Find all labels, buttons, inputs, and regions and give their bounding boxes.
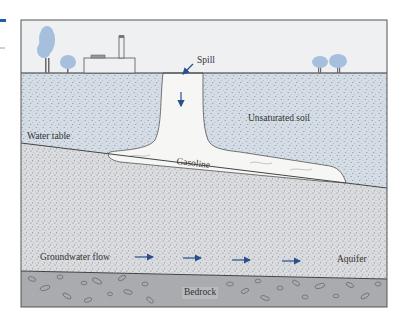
label-groundwater-flow: Groundwater flow bbox=[40, 253, 110, 263]
label-bedrock: Bedrock bbox=[182, 287, 218, 299]
accent-mark bbox=[0, 19, 6, 22]
label-unsaturated-soil: Unsaturated soil bbox=[248, 114, 310, 124]
label-water-table: Water table bbox=[27, 132, 70, 142]
label-aquifer: Aquifer bbox=[337, 255, 367, 265]
label-spill: Spill bbox=[197, 56, 215, 66]
groundwater-contamination-diagram: Spill Unsaturated soil Water table Gasol… bbox=[0, 0, 403, 324]
